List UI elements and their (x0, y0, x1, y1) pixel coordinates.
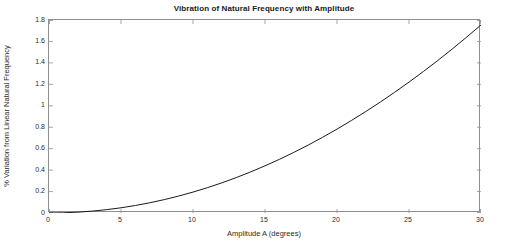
y-tick-label: 0.2 (5, 187, 45, 194)
plot-svg (49, 20, 481, 213)
y-tick-label: 0.6 (5, 144, 45, 151)
axis-tick-marks (49, 20, 481, 213)
x-tick-label: 0 (33, 216, 63, 223)
x-tick-label: 20 (321, 216, 351, 223)
x-tick-label: 10 (177, 216, 207, 223)
chart-title: Vibration of Natural Frequency with Ampl… (48, 4, 480, 13)
x-tick-label: 5 (105, 216, 135, 223)
x-tick-label: 25 (393, 216, 423, 223)
y-tick-label: 1 (5, 101, 45, 108)
x-axis-tick-labels: 051015202530 (48, 216, 480, 226)
figure-canvas: Vibration of Natural Frequency with Ampl… (0, 0, 506, 247)
x-axis-label: Amplitude A (degrees) (48, 229, 480, 238)
x-tick-label: 15 (249, 216, 279, 223)
data-series-line (49, 25, 481, 213)
plot-area (48, 19, 480, 212)
y-tick-label: 0.4 (5, 166, 45, 173)
x-tick-label: 30 (465, 216, 495, 223)
y-axis-tick-labels: 00.20.40.60.811.21.41.61.8 (2, 19, 45, 212)
y-tick-label: 1.4 (5, 58, 45, 65)
y-tick-label: 1.2 (5, 80, 45, 87)
y-tick-label: 1.6 (5, 37, 45, 44)
y-tick-label: 0.8 (5, 123, 45, 130)
y-tick-label: 0 (5, 209, 45, 216)
y-tick-label: 1.8 (5, 16, 45, 23)
